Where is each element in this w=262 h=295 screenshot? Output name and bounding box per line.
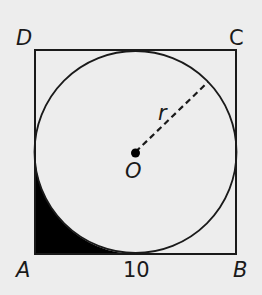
vertex-label-a: A xyxy=(14,258,30,282)
vertex-label-c: C xyxy=(229,26,244,50)
side-length-label: 10 xyxy=(123,258,150,282)
shaded-region xyxy=(35,152,136,254)
vertex-label-d: D xyxy=(16,26,32,50)
vertex-label-b: B xyxy=(233,258,247,282)
center-label-o: O xyxy=(125,159,142,183)
geometry-diagram: D C A B 10 O r xyxy=(0,0,262,295)
center-point xyxy=(131,149,140,158)
radius-line xyxy=(136,82,209,152)
radius-label-r: r xyxy=(158,101,168,125)
